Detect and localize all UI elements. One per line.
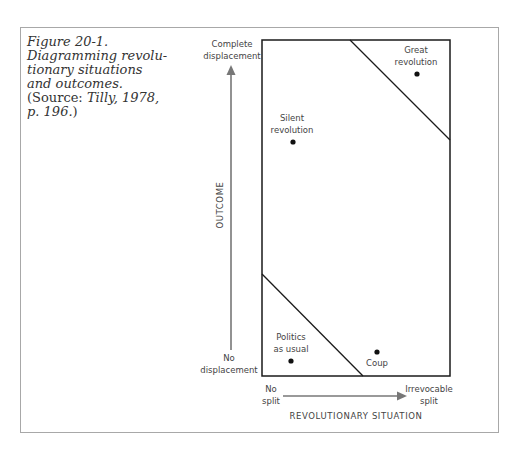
- outcome-box: [262, 40, 450, 376]
- y-axis-top-label: Complete displacement: [203, 38, 260, 62]
- coup-label: Coup: [366, 357, 388, 369]
- silent-revolution-dot: [290, 139, 295, 144]
- great-revolution-label: Great revolution: [395, 44, 438, 68]
- coup-dot: [374, 349, 379, 354]
- x-axis-right-label: Irrevocable split: [405, 383, 453, 407]
- x-axis-left-label: No split: [262, 383, 280, 407]
- y-axis-bottom-label: No displacement: [200, 352, 257, 376]
- arrow-up-icon: [227, 65, 236, 75]
- politics-as-usual-label: Politics as usual: [273, 331, 308, 355]
- great-revolution-dot: [414, 71, 419, 76]
- politics-as-usual-boundary: [262, 274, 363, 376]
- x-axis-title: REVOLUTIONARY SITUATION: [289, 411, 422, 421]
- y-axis-title: OUTCOME: [215, 181, 225, 228]
- politics-as-usual-dot: [288, 358, 293, 363]
- silent-revolution-label: Silent revolution: [271, 112, 314, 136]
